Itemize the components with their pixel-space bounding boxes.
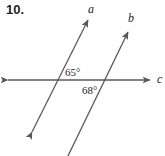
geometry-diagram-svg <box>0 0 165 156</box>
angle-measure-65: 65° <box>65 67 80 78</box>
line-b-transversal <box>67 32 128 156</box>
line-c-label: c <box>157 73 162 85</box>
line-b-label: b <box>128 12 134 24</box>
angle-measure-68: 68° <box>82 85 97 96</box>
geometry-figure: 10. a b c 65° 68° <box>0 0 165 156</box>
line-a-label: a <box>88 3 94 15</box>
